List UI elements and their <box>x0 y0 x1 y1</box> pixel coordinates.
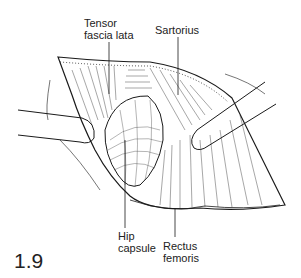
label-line-1: Tensor <box>84 17 134 29</box>
label-line-2: fascia lata <box>84 29 134 41</box>
label-line-1: Hip <box>118 230 156 242</box>
label-line-2: femoris <box>163 252 199 264</box>
label-sartorius: Sartorius <box>155 24 199 36</box>
label-line-2: capsule <box>118 242 156 254</box>
label-rectus-femoris: Rectus femoris <box>163 240 199 264</box>
label-hip-capsule: Hip capsule <box>118 230 156 254</box>
left-retractor <box>18 110 94 143</box>
label-tensor-fascia-lata: Tensor fascia lata <box>84 17 134 41</box>
hip-capsule-dome <box>105 96 163 186</box>
right-retractor <box>192 82 276 150</box>
figure-number: 1.9 <box>14 250 43 272</box>
label-line-1: Rectus <box>163 240 199 252</box>
